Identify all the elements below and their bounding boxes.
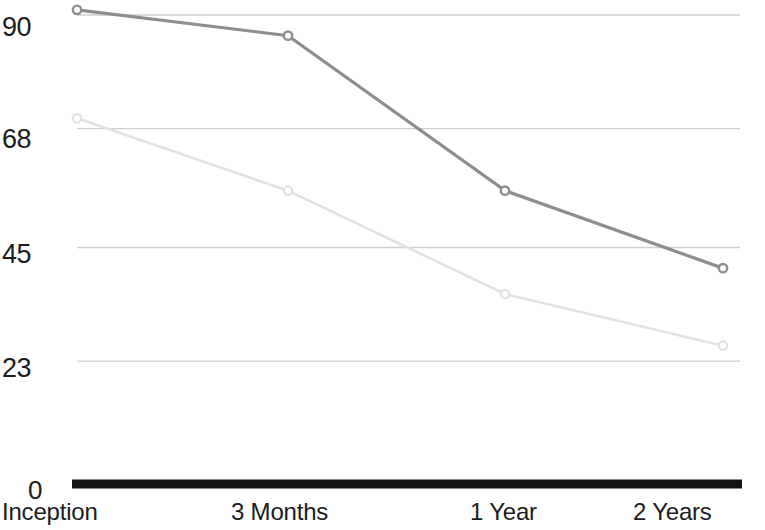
series-2-marker-2	[501, 290, 509, 298]
series-1-marker-1	[284, 31, 292, 39]
series-1-marker-3	[719, 264, 727, 272]
series-1-polyline	[77, 10, 723, 268]
series-1-marker-2	[501, 186, 509, 194]
plot-area	[0, 0, 765, 530]
series-2-marker-0	[73, 114, 81, 122]
series-2-line	[73, 114, 727, 350]
gridlines	[77, 15, 740, 361]
series-2-marker-3	[719, 341, 727, 349]
series-1-line	[73, 6, 727, 273]
series-2-polyline	[77, 118, 723, 345]
series-2-marker-1	[284, 186, 292, 194]
line-chart: 90 68 45 23 0 Inception 3 Months 1 Year …	[0, 0, 765, 530]
series-1-marker-0	[73, 6, 81, 14]
